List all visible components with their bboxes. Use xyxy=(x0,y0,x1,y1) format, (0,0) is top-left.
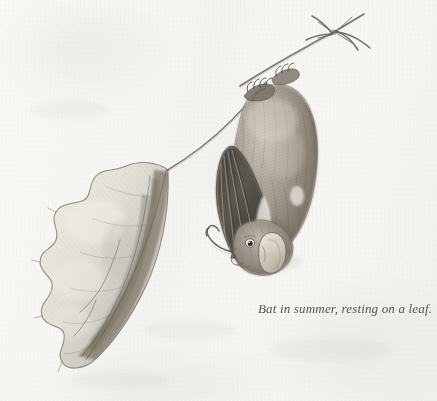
twig-fork-node xyxy=(330,29,337,34)
bat-nose xyxy=(230,255,235,259)
illustration-caption: Bat in summer, resting on a leaf. xyxy=(258,301,432,317)
bat-pupil xyxy=(248,241,253,246)
leaf xyxy=(30,150,180,380)
bat-soft-shadow xyxy=(242,253,302,271)
bat-on-leaf-drawing xyxy=(0,0,437,401)
illustration-plate: Bat in summer, resting on a leaf. xyxy=(0,0,437,401)
bat-flank-patch xyxy=(290,186,304,206)
bat xyxy=(206,63,330,280)
bat-eye-highlight xyxy=(248,241,250,243)
twig xyxy=(240,14,370,88)
twig-fork-tip xyxy=(306,14,370,50)
